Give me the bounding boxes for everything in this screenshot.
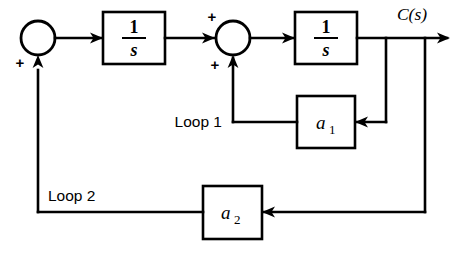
gain-a1-label: a: [316, 112, 326, 133]
loop1-label: Loop 1: [175, 113, 222, 130]
sign-sum2-bottom: +: [211, 56, 220, 73]
integrator1-denominator: s: [129, 40, 137, 60]
gain-a2-subscript: 2: [234, 212, 241, 227]
output-label: C(s): [397, 4, 427, 24]
sign-sum2-left: +: [208, 8, 217, 25]
block-gain-a1: [297, 96, 355, 148]
sign-sum1-bottom: +: [16, 54, 25, 71]
summing-junction-2: [216, 21, 250, 55]
arrowhead-loop2-into-sum1: [33, 55, 44, 68]
summing-junction-1: [21, 21, 55, 55]
loop2-label: Loop 2: [48, 187, 95, 204]
gain-a2-label: a: [221, 202, 231, 223]
control-block-diagram: 1 s 1 s C(s) a 1: [0, 0, 463, 254]
integrator1-numerator: 1: [130, 17, 139, 37]
integrator2-denominator: s: [321, 40, 329, 60]
block-diagram-canvas: 1 s 1 s C(s) a 1: [0, 0, 463, 254]
integrator2-numerator: 1: [322, 17, 331, 37]
block-gain-a2: [203, 186, 262, 239]
gain-a1-subscript: 1: [329, 122, 336, 137]
